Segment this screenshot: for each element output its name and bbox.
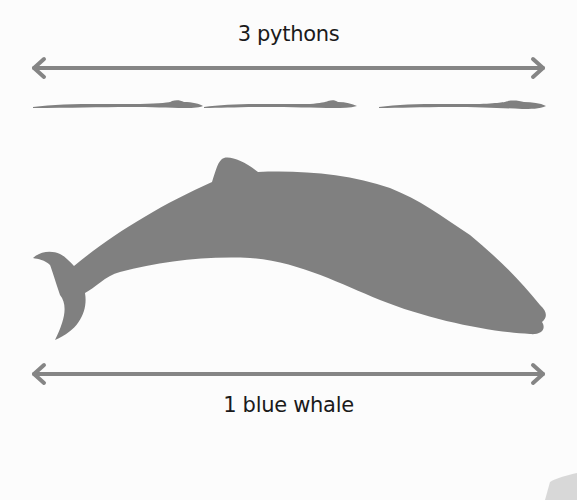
size-comparison-diagram: 3 pythons 1 blue whale — [0, 0, 577, 500]
blue-whale-silhouette — [33, 158, 546, 340]
bottom-double-arrow — [34, 365, 543, 383]
python-2 — [204, 100, 357, 108]
python-3 — [379, 101, 546, 109]
blue-whale-label: 1 blue whale — [0, 393, 577, 417]
python-1 — [33, 100, 203, 108]
diagram-graphics — [0, 0, 577, 500]
python-silhouettes — [33, 100, 546, 109]
top-double-arrow — [34, 59, 543, 77]
page-corner-tab — [545, 473, 577, 500]
